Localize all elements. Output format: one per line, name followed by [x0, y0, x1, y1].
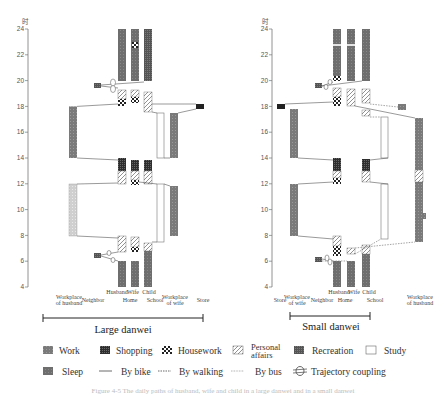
- y-tick-label: 8: [264, 232, 268, 239]
- legend-item-by-walking: By walking: [158, 367, 223, 377]
- space-time-path-diagram: 时 2422201816141210864: [0, 0, 446, 395]
- legend-item-recreation: Recreation: [294, 346, 353, 356]
- y-tick-label: 16: [17, 128, 25, 135]
- child-recreation-noon: [362, 159, 370, 171]
- wife-personal-evening: [131, 90, 139, 97]
- svg-text:Recreation: Recreation: [312, 346, 353, 356]
- legend-item-personal-affairs: Personal affairs: [233, 342, 281, 360]
- location-labels-large: Workplaceof husbandNeighborHomeSchoolWor…: [56, 294, 210, 306]
- husband-sleep-morning: [118, 261, 126, 287]
- wife-work-am: [290, 184, 298, 236]
- wife-housework-evening: [131, 97, 139, 103]
- member-label-child: Child: [142, 289, 155, 295]
- wife-personal-morning: [131, 237, 139, 247]
- husband-personal-noon: [333, 171, 341, 178]
- husband-housework-morning: [333, 246, 341, 256]
- svg-text:By bike: By bike: [121, 367, 151, 377]
- legend-item-housework: Housework: [162, 346, 222, 356]
- coupling-markers-large: [107, 79, 116, 263]
- study-swatch-icon: [366, 346, 376, 354]
- husband-shopping-noon: [333, 158, 341, 171]
- y-tick-label: 6: [20, 257, 24, 264]
- husband-housework-night: [333, 44, 341, 46]
- group-bracket-large: Large danwei: [43, 314, 203, 335]
- location-labels-small: StoreWorkplaceof wifeNeighborHomeSchoolW…: [274, 294, 434, 306]
- trajectory-coupling-icon: [324, 85, 328, 90]
- legend: Work Shopping Housework Personal affairs…: [43, 342, 406, 377]
- trajectory-coupling-icon: [293, 367, 307, 376]
- y-tick-label: 16: [261, 128, 269, 135]
- y-tick-label: 4: [20, 283, 24, 290]
- y-tick-label: 8: [20, 232, 24, 239]
- member-label-husband: Husband: [106, 289, 127, 295]
- wife-housework-morning: [131, 247, 139, 252]
- husband-work-notch: [419, 213, 426, 219]
- svg-text:By walking: By walking: [179, 367, 223, 377]
- husband-sleep-night: [333, 29, 341, 80]
- legend-item-shopping: Shopping: [100, 346, 153, 356]
- child-study-pm: [381, 117, 388, 158]
- y-tick-label: 18: [261, 103, 269, 110]
- y-ticks: 2422201816141210864: [261, 25, 272, 290]
- shopping-swatch-icon: [100, 346, 110, 354]
- trajectory-coupling-icon: [328, 259, 332, 265]
- neighbor-recreation-morning: [94, 253, 101, 258]
- location-label-workplace-of-husband: of husband: [56, 300, 83, 306]
- y-tick-label: 12: [17, 180, 25, 187]
- wife-work-pm: [170, 113, 178, 158]
- neighbor-recreation-morning: [315, 257, 322, 262]
- child-study-pm: [157, 113, 164, 158]
- work-swatch-icon: [43, 346, 53, 354]
- panel-small-danwei: 时 2422201816141210864: [261, 17, 433, 332]
- neighbor-recreation-evening: [94, 83, 101, 88]
- y-tick-label: 4: [264, 283, 268, 290]
- child-personal-morning: [144, 243, 152, 251]
- child-personal-evening: [144, 92, 152, 112]
- husband-housework-late: [333, 76, 341, 81]
- y-tick-label: 24: [261, 25, 269, 32]
- y-axis: 时 2422201816141210864: [261, 17, 272, 290]
- recreation-swatch-icon: [294, 346, 304, 354]
- y-tick-label: 22: [17, 51, 25, 58]
- child-personal-noon: [144, 171, 152, 184]
- location-label-workplace-of-husband: of husband: [407, 300, 434, 306]
- husband-personal-evening: [333, 88, 341, 97]
- husband-personal-work: [415, 170, 423, 182]
- wife-sleep-night: [347, 29, 355, 81]
- store-right: [398, 104, 406, 110]
- location-label-workplace-of-wife: of wife: [288, 300, 305, 306]
- child-sleep-night: [362, 29, 370, 81]
- svg-text:Sleep: Sleep: [62, 367, 83, 377]
- y-unit-label: 时: [262, 17, 269, 25]
- wife-personal-morning: [347, 248, 355, 254]
- husband-personal-morning: [333, 236, 341, 246]
- trajectory-coupling-icon: [111, 79, 116, 86]
- store-shopping: [196, 104, 204, 109]
- svg-text:Housework: Housework: [178, 346, 222, 356]
- location-label-school: School: [367, 297, 384, 303]
- wife-sleep-morning: [131, 261, 139, 287]
- member-labels-small: HusbandWifeChild: [328, 289, 375, 295]
- location-label-home: Home: [338, 297, 353, 303]
- wife-sleep-night: [131, 29, 139, 81]
- y-tick-label: 10: [17, 206, 25, 213]
- husband-sleep-night: [118, 29, 126, 81]
- legend-item-by-bike: By bike: [99, 367, 151, 377]
- wife-work-pm: [290, 109, 298, 158]
- housework-swatch-icon: [162, 346, 172, 354]
- group-bracket-small: Small danwei: [290, 312, 370, 332]
- figure-caption: Figure 4-5 The daily paths of husband, w…: [92, 387, 355, 395]
- y-axis: 时 2422201816141210864: [17, 17, 29, 290]
- y-tick-label: 12: [261, 180, 269, 187]
- member-label-child: Child: [362, 289, 375, 295]
- husband-housework-noon: [333, 178, 341, 184]
- husband-personal-morning: [118, 236, 126, 252]
- wife-housework-noon: [131, 180, 139, 185]
- trajectory-coupling-icon: [107, 251, 111, 256]
- child-study-am: [381, 184, 388, 239]
- y-unit-label: 时: [22, 17, 29, 25]
- y-tick-label: 20: [17, 77, 25, 84]
- wife-shopping-noon: [131, 160, 139, 171]
- location-label-workplace-of-wife: of wife: [166, 300, 183, 306]
- child-recreation-noon: [144, 160, 152, 171]
